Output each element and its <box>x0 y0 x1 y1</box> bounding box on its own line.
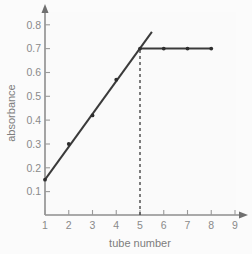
y-axis-title: absorbance <box>5 84 17 142</box>
x-tick-label: 2 <box>66 219 72 231</box>
y-tick-label: 0.1 <box>26 185 41 197</box>
x-tick-label: 5 <box>137 219 143 231</box>
x-axis-arrow-icon <box>239 212 248 219</box>
y-axis-arrow-icon <box>42 4 49 13</box>
y-tick-label: 0.7 <box>26 42 41 54</box>
chart-canvas: 0.1 0.2 0.3 0.4 0.5 0.6 0.7 0.8 1 2 3 4 <box>0 0 252 254</box>
data-point <box>43 178 47 182</box>
x-tick-label: 1 <box>42 219 48 231</box>
data-point <box>138 47 142 51</box>
x-tick-label: 9 <box>232 219 238 231</box>
y-tick-label: 0.6 <box>26 66 41 78</box>
data-point <box>114 78 118 82</box>
x-axis-title: tube number <box>109 237 171 249</box>
y-axis-tick-labels: 0.1 0.2 0.3 0.4 0.5 0.6 0.7 0.8 <box>26 19 41 198</box>
data-point <box>209 47 213 51</box>
y-tick-label: 0.3 <box>26 138 41 150</box>
y-tick-label: 0.8 <box>26 19 41 31</box>
data-point <box>91 114 95 118</box>
x-tick-label: 4 <box>113 219 119 231</box>
x-axis-tick-labels: 1 2 3 4 5 6 7 8 9 <box>42 219 238 231</box>
x-tick-label: 3 <box>90 219 96 231</box>
x-tick-label: 6 <box>161 219 167 231</box>
data-point <box>67 142 71 146</box>
x-tick-label: 7 <box>185 219 191 231</box>
y-tick-label: 0.4 <box>26 114 41 126</box>
absorbance-vs-tube-number-chart: 0.1 0.2 0.3 0.4 0.5 0.6 0.7 0.8 1 2 3 4 <box>0 0 252 254</box>
data-point <box>186 47 190 51</box>
x-tick-label: 8 <box>208 219 214 231</box>
y-tick-label: 0.2 <box>26 162 41 174</box>
data-point <box>162 47 166 51</box>
y-tick-label: 0.5 <box>26 90 41 102</box>
